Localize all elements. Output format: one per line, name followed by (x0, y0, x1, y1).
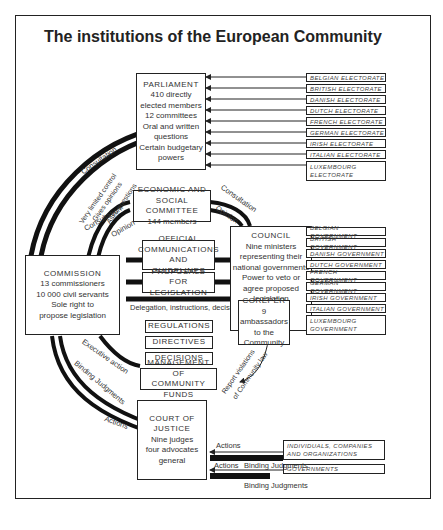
binding-judgments-label-1: Binding Judgments (244, 461, 308, 470)
council-line: Nine ministers (246, 242, 297, 253)
coreper-line: 9 ambassadors (239, 307, 289, 328)
government-british: BRITISH GOVERNMENT (306, 238, 386, 247)
council-line: Power to veto or (242, 273, 300, 284)
government-german: GERMAN GOVERNMENT (306, 282, 386, 291)
court-line: Nine judges (151, 435, 193, 446)
court-of-justice-box: COURT OF JUSTICE Nine judges four advoca… (137, 400, 207, 480)
coreper-line: to the (254, 328, 274, 339)
coreper-box: COREPER 9 ambassadors to the Community (238, 300, 290, 345)
economic-social-committee-box: ECONOMIC AND SOCIAL COMMITTEE 144 member… (133, 190, 211, 222)
government-danish: DANISH GOVERNMENT (306, 249, 386, 258)
official-line: OFFICIAL (158, 234, 198, 245)
directives-box: DIRECTIVES (145, 336, 213, 349)
esc-members: 144 members (148, 217, 197, 228)
coreper-name: COREPER (242, 296, 285, 307)
council-name: COUNCIL (251, 231, 291, 242)
proposals-line: PROPOSALS FOR (143, 267, 214, 288)
commission-line: 10 000 civil servants (36, 290, 108, 301)
individuals-line2: AND ORGANIZATIONS (287, 450, 384, 458)
parliament-box: PARLIAMENT 410 directly elected members … (136, 73, 206, 170)
court-name: JUSTICE (154, 424, 191, 435)
parliament-line: 410 directly (151, 90, 192, 101)
electorate-dutch: DUTCH ELECTORATE (306, 106, 386, 115)
management-line: COMMUNITY FUNDS (141, 379, 216, 400)
binding-judgments-label-2: Binding Judgments (244, 481, 308, 490)
actions-label-2: Actions (214, 461, 239, 470)
government-irish: IRISH GOVERNMENT (306, 293, 386, 302)
proposals-for-legislation-box: PROPOSALS FOR LEGISLATION (142, 272, 215, 293)
regulations-box: REGULATIONS (145, 320, 213, 333)
council-line: national governments (233, 263, 310, 274)
electorate-arrows (206, 77, 306, 165)
government-italian: ITALIAN GOVERNMENT (306, 304, 386, 313)
electorate-luxembourg-line2: ELECTORATE (310, 171, 385, 179)
individuals-line1: INDIVIDUALS, COMPANIES (287, 442, 384, 450)
esc-line: SOCIAL COMMITTEE (134, 196, 210, 217)
council-line: agree proposed (243, 284, 299, 295)
electorate-french: FRENCH ELECTORATE (306, 117, 386, 126)
parliament-line: 12 committees (145, 111, 197, 122)
regulations-label: REGULATIONS (148, 321, 210, 332)
official-communications-box: OFFICIAL COMMUNICATIONS AND GUIDELINES (142, 240, 215, 270)
court-line: general (159, 456, 186, 467)
management-line: MANAGEMENT OF (141, 358, 216, 379)
commission-line: Sole right to (51, 300, 94, 311)
electorate-luxembourg-line1: LUXEMBOURG (310, 163, 385, 171)
parliament-line: Oral and written (143, 122, 199, 133)
parliament-line: questions (154, 132, 188, 143)
government-luxembourg-line1: LUXEMBOURG (310, 317, 385, 325)
esc-line: ECONOMIC AND (138, 185, 207, 196)
electorate-belgian: BELGIAN ELECTORATE (306, 73, 386, 82)
commission-box: COMMISSION 13 commissioners 10 000 civil… (25, 255, 120, 335)
electorate-luxembourg: LUXEMBOURG ELECTORATE (306, 161, 386, 181)
parliament-line: elected members (140, 101, 201, 112)
electorate-german: GERMAN ELECTORATE (306, 128, 386, 137)
commission-line: propose legislation (39, 311, 106, 322)
commission-name: COMMISSION (44, 269, 101, 280)
government-luxembourg: LUXEMBOURG GOVERNMENT (306, 315, 386, 335)
parliament-line: powers (158, 153, 184, 164)
delegation-label: Delegation, instructions, decisions (130, 303, 243, 312)
court-name: COURT OF (149, 414, 194, 425)
actions-label-1: Actions (216, 441, 241, 450)
parliament-line: Certain budgetary (139, 143, 203, 154)
official-line: COMMUNICATIONS (138, 245, 219, 256)
government-luxembourg-line2: GOVERNMENT (310, 325, 385, 333)
electorate-danish: DANISH ELECTORATE (306, 95, 386, 104)
proposals-line: LEGISLATION (150, 288, 207, 299)
court-line: four advocates (146, 445, 198, 456)
parliament-name: PARLIAMENT (143, 80, 199, 91)
individuals-companies-box: INDIVIDUALS, COMPANIES AND ORGANIZATIONS (283, 440, 385, 460)
management-funds-box: MANAGEMENT OF COMMUNITY FUNDS (140, 368, 217, 390)
commission-line: 13 commissioners (40, 279, 104, 290)
directives-label: DIRECTIVES (152, 337, 205, 348)
council-line: representing their (240, 252, 302, 263)
electorate-british: BRITISH ELECTORATE (306, 84, 386, 93)
electorate-irish: IRISH ELECTORATE (306, 139, 386, 148)
electorate-italian: ITALIAN ELECTORATE (306, 150, 386, 159)
